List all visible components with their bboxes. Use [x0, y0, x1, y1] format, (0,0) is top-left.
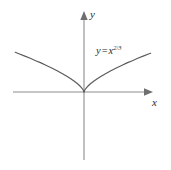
plot-canvas — [0, 0, 171, 170]
equation-lhs: y — [96, 45, 101, 56]
equation-operator: = — [101, 45, 109, 56]
y-axis-label: y — [90, 9, 95, 20]
curve-right-branch — [84, 53, 151, 92]
x-axis-label: x — [152, 97, 157, 108]
curve-left-branch — [15, 52, 84, 92]
exponent-denominator: 3 — [118, 44, 121, 51]
function-plot-figure: y x y=x2/3 — [0, 0, 171, 170]
x-axis-arrowhead — [144, 88, 153, 96]
y-axis-arrowhead — [80, 11, 87, 20]
equation-exponent: 2/3 — [113, 44, 121, 51]
curve-equation-label: y=x2/3 — [96, 46, 122, 57]
